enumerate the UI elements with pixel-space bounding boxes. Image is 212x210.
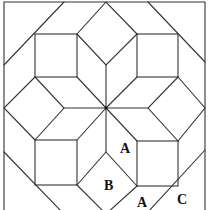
piece-labels: A B A C xyxy=(104,141,187,210)
square-top-left xyxy=(35,34,77,77)
label-a-upper: A xyxy=(120,141,131,156)
label-c: C xyxy=(177,192,187,207)
label-a-lower: A xyxy=(137,195,148,210)
square-bottom-right xyxy=(137,141,178,186)
quilt-block-diagram: A B A C xyxy=(0,0,212,210)
label-b: B xyxy=(104,178,113,193)
star-diamonds xyxy=(35,34,178,186)
square-top-right xyxy=(137,34,178,77)
square-bottom-left xyxy=(35,140,77,185)
center-point xyxy=(105,107,108,110)
